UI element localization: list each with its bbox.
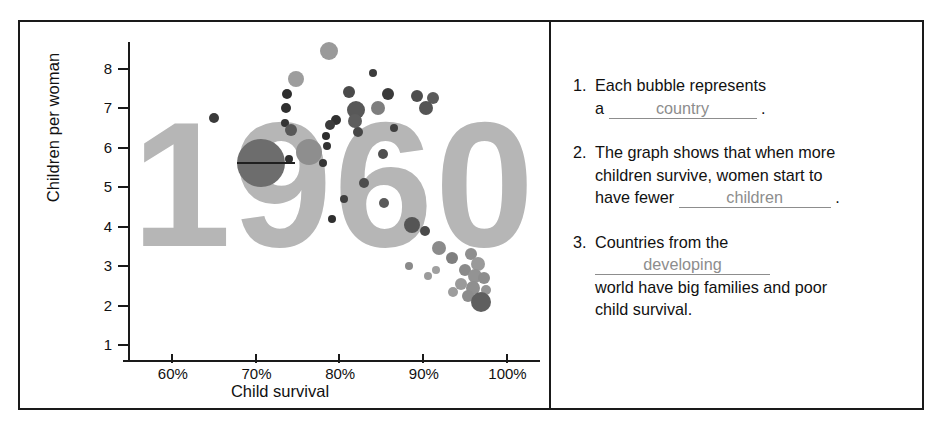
bubble-data-point <box>320 42 338 60</box>
x-axis-title: Child survival <box>110 382 450 401</box>
bubble-data-point <box>405 262 413 270</box>
question-3-line-1: Countries from the developing <box>595 231 904 276</box>
bubble-data-point <box>382 88 394 100</box>
question-3-line-3: child survival. <box>595 298 904 321</box>
bubble-data-point <box>322 132 330 140</box>
y-axis-line <box>128 42 130 361</box>
y-tick-mark <box>118 147 128 149</box>
question-2-text-after: . <box>835 188 840 206</box>
x-tick-label: 80% <box>310 365 370 382</box>
question-2-answer-blank[interactable]: children <box>679 188 831 208</box>
x-tick-label: 60% <box>143 365 203 382</box>
bubble-data-point <box>282 89 292 99</box>
y-tick-mark <box>118 265 128 267</box>
y-tick-mark <box>118 186 128 188</box>
bubble-data-point <box>390 124 398 132</box>
bubble-data-point <box>371 101 385 115</box>
y-tick-mark <box>118 344 128 346</box>
y-tick-label: 5 <box>72 178 112 195</box>
y-tick-label: 8 <box>72 60 112 77</box>
y-tick-label: 7 <box>72 99 112 116</box>
question-2-line-2: children survive, women start to <box>595 164 904 187</box>
chart-pane: Children per woman 1960 12345678 60%70%8… <box>20 22 551 408</box>
x-tick-mark <box>338 354 340 363</box>
question-3-answer-blank[interactable]: developing <box>595 255 770 275</box>
y-tick-mark <box>118 68 128 70</box>
x-tick-label: 100% <box>478 365 538 382</box>
x-tick-mark <box>171 354 173 363</box>
bubble-data-point <box>424 272 432 280</box>
bubble-data-point <box>378 149 388 159</box>
bubble-data-point <box>446 252 458 264</box>
question-1-text-before: a <box>595 99 604 117</box>
median-annotation-line <box>237 162 295 164</box>
question-2-text-before: have fewer <box>595 188 674 206</box>
bubble-data-point <box>369 69 377 77</box>
question-3-text-before: Countries from the <box>595 233 728 251</box>
question-3-number: 3. <box>573 231 587 254</box>
bubble-data-point <box>285 124 297 136</box>
question-2-line-3: have fewer children . <box>595 186 904 209</box>
worksheet-frame: Children per woman 1960 12345678 60%70%8… <box>18 20 924 410</box>
bubble-data-point <box>340 195 348 203</box>
question-2: 2. The graph shows that when more childr… <box>573 141 904 209</box>
question-1: 1. Each bubble represents a country . <box>573 74 904 119</box>
x-tick-label: 90% <box>394 365 454 382</box>
bubble-data-point <box>328 215 336 223</box>
question-2-number: 2. <box>573 141 587 164</box>
bubble-data-point <box>323 142 331 150</box>
bubble-data-point <box>319 159 327 167</box>
y-tick-label: 4 <box>72 218 112 235</box>
y-tick-mark <box>118 305 128 307</box>
y-tick-mark <box>118 107 128 109</box>
question-3: 3. Countries from the developing world h… <box>573 231 904 321</box>
bubble-data-point <box>404 217 420 233</box>
bubble-data-point <box>379 198 389 208</box>
bubble-data-point <box>448 287 458 297</box>
bubble-data-point <box>432 241 446 255</box>
bubble-data-point <box>281 103 291 113</box>
bubble-data-point <box>348 114 362 128</box>
questions-pane: 1. Each bubble represents a country . 2.… <box>551 22 922 408</box>
bubble-data-point <box>325 120 335 130</box>
question-3-line-2: world have big families and poor <box>595 276 904 299</box>
bubble-data-point <box>411 90 423 102</box>
question-1-answer-blank[interactable]: country <box>609 99 757 119</box>
x-axis-line <box>123 360 540 362</box>
x-tick-label: 70% <box>227 365 287 382</box>
question-list: 1. Each bubble represents a country . 2.… <box>573 74 904 321</box>
x-tick-mark <box>506 354 508 363</box>
bubble-data-point <box>343 86 355 98</box>
bubble-data-point <box>419 101 433 115</box>
y-tick-mark <box>118 226 128 228</box>
worksheet-page: Children per woman 1960 12345678 60%70%8… <box>0 0 942 428</box>
y-tick-label: 6 <box>72 139 112 156</box>
bubble-data-point <box>432 266 440 274</box>
bubble-data-point <box>353 127 363 137</box>
question-1-line-1: Each bubble represents <box>595 74 904 97</box>
bubble-data-point <box>288 71 304 87</box>
y-tick-label: 3 <box>72 257 112 274</box>
x-tick-mark <box>255 354 257 363</box>
bubble-data-point <box>209 113 219 123</box>
bubble-data-point <box>478 272 490 284</box>
bubble-chart: Children per woman 1960 12345678 60%70%8… <box>20 22 549 408</box>
bubble-data-point <box>359 178 369 188</box>
question-1-number: 1. <box>573 74 587 97</box>
y-tick-label: 1 <box>72 336 112 353</box>
bubble-data-point <box>296 139 322 165</box>
y-tick-label: 2 <box>72 297 112 314</box>
bubble-data-point <box>471 292 491 312</box>
question-2-line-1: The graph shows that when more <box>595 141 904 164</box>
question-1-line-2: a country . <box>595 97 904 120</box>
x-tick-mark <box>422 354 424 363</box>
question-1-text-after: . <box>761 99 766 117</box>
bubble-data-point <box>420 226 430 236</box>
